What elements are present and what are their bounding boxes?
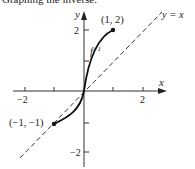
tick-label-x-2: 2 <box>140 94 145 105</box>
point-top-label: (1, 2) <box>101 14 124 26</box>
point-bottom-label: (−1, −1) <box>9 117 44 129</box>
identity-line <box>20 12 162 158</box>
tick-label-y-2: 2 <box>74 25 79 36</box>
point-bottom <box>52 122 56 126</box>
tick-label-x-neg2: −2 <box>17 94 28 105</box>
y-axis-label: y <box>74 8 80 20</box>
tick-label-y-neg2: −2 <box>70 147 81 158</box>
x-axis-arrow-icon <box>158 88 167 94</box>
x-axis-label: x <box>158 76 164 88</box>
curve-label: f−1 <box>90 45 101 57</box>
identity-line-label: y = x <box>161 9 184 20</box>
y-axis-arrow-icon <box>81 11 87 20</box>
point-top <box>111 28 115 32</box>
graph: y x −2 2 2 −2 (1, 2) (−1, −1) f−1 y = x <box>0 0 195 169</box>
